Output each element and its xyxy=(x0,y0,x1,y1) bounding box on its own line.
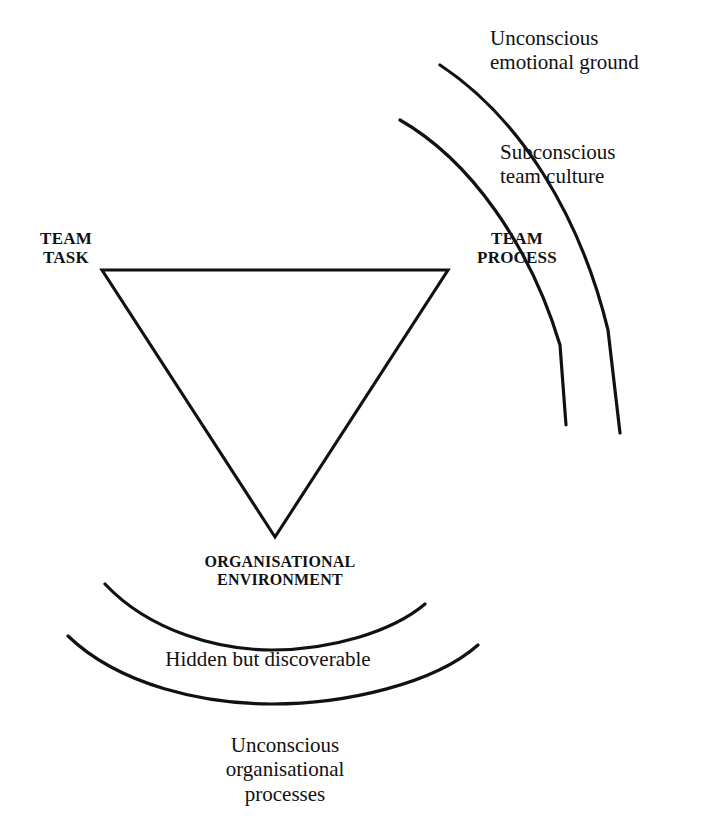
diagram-graphics xyxy=(0,0,713,835)
label-team-process: TEAM PROCESS xyxy=(452,229,582,267)
hidden-but-discoverable-arc xyxy=(105,584,425,650)
label-team-task: TEAM TASK xyxy=(6,229,126,267)
label-hidden-but-discoverable: Hidden but discoverable xyxy=(113,648,423,672)
label-unconscious-emotional-ground: Unconscious emotional ground xyxy=(490,27,705,74)
diagram-canvas: TEAM TASK TEAM PROCESS ORGANISATIONAL EN… xyxy=(0,0,713,835)
label-unconscious-organisational-processes: Unconscious organisational processes xyxy=(160,733,410,806)
inverted-triangle xyxy=(102,270,448,537)
label-organisational-environment: ORGANISATIONAL ENVIRONMENT xyxy=(140,553,420,589)
label-subconscious-team-culture: Subconscious team culture xyxy=(500,141,705,188)
